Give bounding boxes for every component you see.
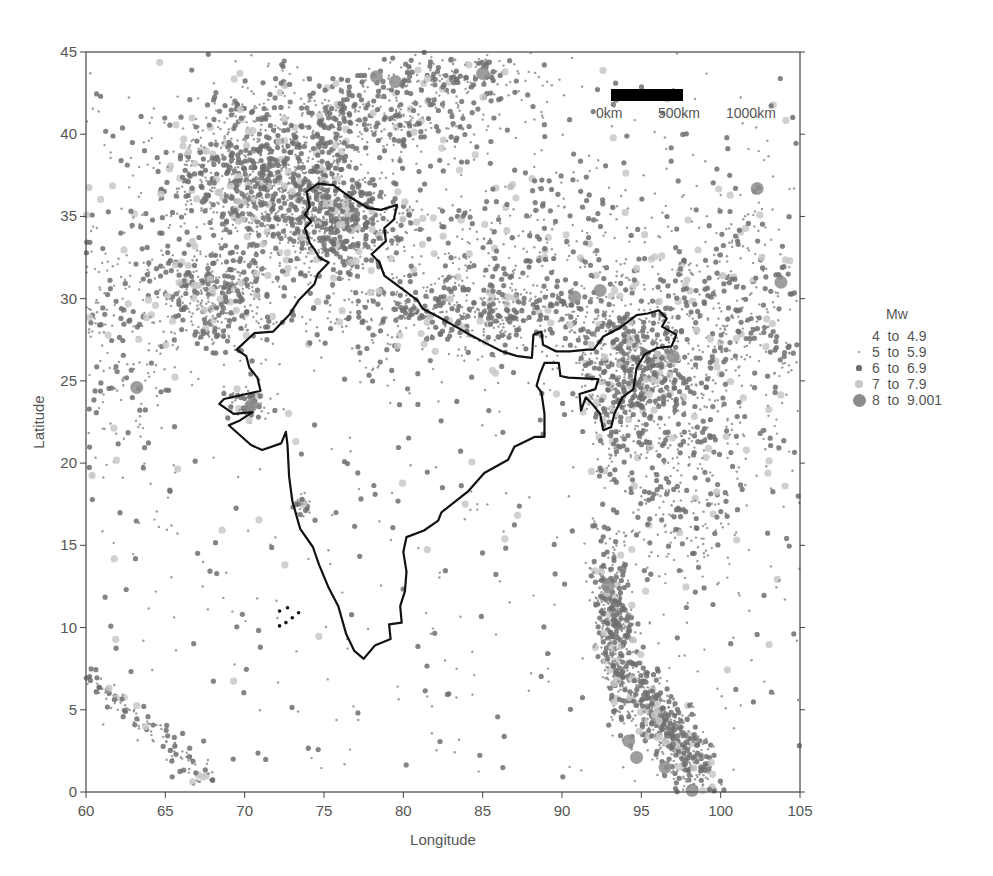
quake-point bbox=[338, 216, 340, 218]
quake-point bbox=[484, 59, 486, 61]
quake-point bbox=[389, 368, 394, 373]
quake-point bbox=[300, 98, 302, 100]
quake-point bbox=[635, 515, 640, 520]
quake-point bbox=[221, 154, 223, 156]
quake-point bbox=[767, 415, 769, 417]
quake-point bbox=[630, 487, 632, 489]
quake-point bbox=[405, 70, 410, 75]
quake-point bbox=[312, 518, 317, 523]
quake-point bbox=[100, 678, 102, 680]
quake-point bbox=[229, 112, 234, 117]
quake-point bbox=[673, 786, 678, 791]
quake-point bbox=[320, 194, 325, 199]
quake-point bbox=[461, 306, 463, 308]
quake-point bbox=[512, 301, 514, 303]
quake-point bbox=[627, 580, 629, 582]
quake-point bbox=[702, 774, 704, 776]
quake-point bbox=[318, 120, 323, 125]
quake-point bbox=[316, 747, 321, 752]
quake-point bbox=[221, 329, 226, 334]
quake-point bbox=[323, 105, 328, 110]
quake-point bbox=[197, 125, 199, 127]
quake-point bbox=[744, 346, 746, 348]
quake-point bbox=[328, 311, 330, 313]
quake-point bbox=[668, 375, 670, 377]
quake-point bbox=[690, 434, 692, 436]
quake-point bbox=[680, 250, 682, 252]
quake-point bbox=[708, 360, 713, 365]
quake-point bbox=[542, 246, 547, 251]
quake-point bbox=[341, 116, 346, 121]
quake-point bbox=[241, 291, 243, 293]
quake-point bbox=[674, 227, 679, 232]
quake-point bbox=[667, 447, 669, 449]
quake-point bbox=[496, 334, 501, 339]
quake-point bbox=[365, 366, 367, 368]
quake-point bbox=[623, 682, 625, 684]
quake-point bbox=[668, 393, 670, 395]
quake-point bbox=[88, 328, 90, 330]
quake-point bbox=[462, 127, 464, 129]
quake-point bbox=[589, 567, 591, 569]
quake-point bbox=[449, 114, 454, 119]
quake-point bbox=[669, 434, 676, 441]
quake-point bbox=[787, 371, 789, 373]
legend-label: 6 to 6.9 bbox=[872, 360, 926, 376]
quake-point bbox=[102, 393, 104, 395]
quake-point bbox=[148, 376, 150, 378]
quake-point bbox=[656, 733, 663, 740]
quake-point bbox=[191, 641, 196, 646]
quake-point bbox=[650, 440, 652, 442]
quake-point bbox=[514, 328, 519, 333]
quake-point bbox=[279, 190, 281, 192]
quake-point bbox=[727, 378, 734, 385]
quake-point bbox=[501, 535, 508, 542]
quake-point bbox=[370, 298, 372, 300]
quake-point bbox=[221, 304, 223, 306]
quake-point bbox=[396, 276, 398, 278]
quake-point bbox=[537, 298, 542, 303]
quake-point bbox=[181, 750, 183, 752]
quake-point bbox=[647, 717, 649, 719]
quake-point bbox=[599, 404, 601, 406]
quake-point bbox=[779, 253, 781, 255]
quake-point bbox=[273, 76, 278, 81]
quake-point bbox=[274, 128, 276, 130]
quake-point bbox=[398, 315, 403, 320]
quake-point bbox=[259, 326, 261, 328]
quake-point bbox=[690, 208, 692, 210]
quake-point bbox=[618, 733, 623, 738]
quake-point bbox=[197, 276, 199, 278]
quake-point bbox=[664, 731, 669, 736]
quake-point bbox=[786, 345, 791, 350]
quake-point bbox=[791, 631, 796, 636]
quake-point bbox=[255, 196, 257, 198]
quake-point bbox=[260, 318, 262, 320]
quake-point bbox=[681, 196, 683, 198]
quake-point bbox=[216, 259, 218, 261]
quake-point bbox=[183, 222, 185, 224]
quake-point bbox=[399, 480, 406, 487]
quake-point bbox=[684, 605, 689, 610]
quake-point bbox=[502, 530, 504, 532]
quake-point bbox=[98, 110, 100, 112]
quake-point bbox=[381, 317, 386, 322]
quake-point bbox=[213, 211, 215, 213]
quake-point bbox=[656, 285, 661, 290]
quake-point bbox=[503, 342, 508, 347]
quake-point bbox=[540, 204, 545, 209]
quake-point bbox=[327, 549, 329, 551]
quake-point bbox=[598, 468, 603, 473]
quake-point bbox=[276, 393, 278, 395]
quake-point bbox=[625, 258, 627, 260]
quake-point bbox=[247, 530, 249, 532]
quake-point bbox=[208, 223, 210, 225]
quake-point bbox=[659, 677, 661, 679]
quake-point bbox=[315, 104, 317, 106]
quake-point bbox=[383, 112, 385, 114]
quake-point bbox=[295, 155, 300, 160]
quake-point bbox=[287, 173, 289, 175]
quake-point bbox=[245, 127, 252, 134]
quake-point bbox=[397, 158, 402, 163]
quake-point bbox=[267, 232, 269, 234]
